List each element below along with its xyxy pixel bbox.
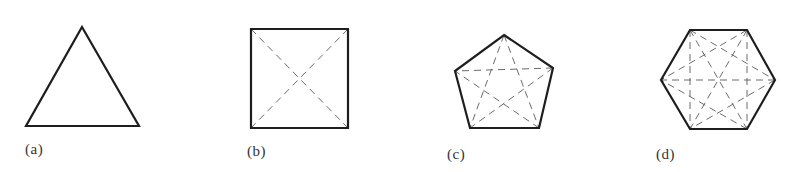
triangle-outline — [26, 27, 139, 126]
polygon-diagonals-figure — [0, 0, 796, 172]
dashed-diagonal — [455, 68, 553, 71]
dashed-diagonal — [661, 80, 747, 129]
hexagon-panel — [661, 30, 775, 129]
pentagon-panel — [455, 35, 553, 128]
dashed-diagonal — [504, 35, 539, 128]
dashed-diagonal — [251, 29, 348, 128]
hexagon-outline — [661, 30, 775, 129]
label-b: (b) — [247, 143, 266, 160]
triangle-panel — [26, 27, 139, 126]
square-panel — [251, 29, 348, 128]
dashed-diagonal — [470, 35, 504, 128]
label-a: (a) — [25, 141, 43, 158]
dashed-diagonal — [251, 29, 348, 128]
pentagon-outline — [455, 35, 553, 128]
square-outline — [251, 29, 348, 128]
label-c: (c) — [447, 146, 465, 163]
label-d: (d) — [656, 146, 675, 163]
dashed-diagonal — [661, 30, 747, 80]
